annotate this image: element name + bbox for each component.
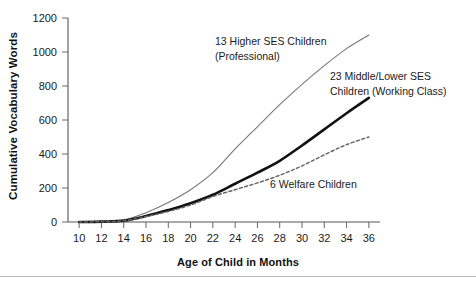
line-chart-plot: 1200 1000 800 600 400 200 0 101214161820… — [0, 0, 476, 250]
x-axis-title: Age of Child in Months — [0, 256, 476, 268]
x-axis-ticks — [79, 222, 369, 228]
series-line-middle-lower-ses — [79, 98, 369, 222]
x-tick-label-28: 28 — [274, 232, 286, 244]
x-tick-label-34: 34 — [340, 232, 352, 244]
annotation-welfare: 6 Welfare Children — [270, 178, 357, 190]
y-tick-label-200: 200 — [39, 182, 57, 194]
annotation-higher-ses: 13 Higher SES Children (Professional) — [215, 35, 327, 62]
annotation-middle-ses: 23 Middle/Lower SES Children (Working Cl… — [330, 70, 447, 97]
y-tick-label-600: 600 — [39, 114, 57, 126]
x-tick-label-22: 22 — [207, 232, 219, 244]
y-tick-label-400: 400 — [39, 148, 57, 160]
x-tick-label-32: 32 — [318, 232, 330, 244]
y-axis-title: Cumulative Vocabulary Words — [7, 32, 19, 200]
x-axis-tick-labels: 1012141618202224262830323436 — [73, 232, 375, 244]
y-tick-label-1200: 1200 — [33, 12, 57, 24]
y-tick-label-1000: 1000 — [33, 46, 57, 58]
x-tick-label-18: 18 — [162, 232, 174, 244]
x-tick-label-26: 26 — [251, 232, 263, 244]
x-tick-label-12: 12 — [95, 232, 107, 244]
x-tick-label-20: 20 — [184, 232, 196, 244]
annot-higher-ses-line2: (Professional) — [215, 50, 280, 62]
footer-divider — [0, 276, 476, 277]
y-tick-label-800: 800 — [39, 80, 57, 92]
x-tick-label-16: 16 — [140, 232, 152, 244]
annot-welfare-line1: 6 Welfare Children — [270, 178, 357, 190]
y-axis-tick-labels: 1200 1000 800 600 400 200 0 — [33, 12, 57, 228]
x-tick-label-14: 14 — [118, 232, 130, 244]
x-tick-label-10: 10 — [73, 232, 85, 244]
annot-higher-ses-line1: 13 Higher SES Children — [215, 35, 327, 47]
y-axis-ticks — [62, 18, 68, 222]
x-tick-label-30: 30 — [296, 232, 308, 244]
y-tick-label-0: 0 — [51, 216, 57, 228]
y-axis-title-container: Cumulative Vocabulary Words — [0, 0, 26, 232]
annot-middle-ses-line2: Children (Working Class) — [330, 85, 447, 97]
x-tick-label-36: 36 — [363, 232, 375, 244]
x-tick-label-24: 24 — [229, 232, 241, 244]
chart-figure: Cumulative Vocabulary Words 1200 1000 80… — [0, 0, 476, 281]
annot-middle-ses-line1: 23 Middle/Lower SES — [330, 70, 431, 82]
